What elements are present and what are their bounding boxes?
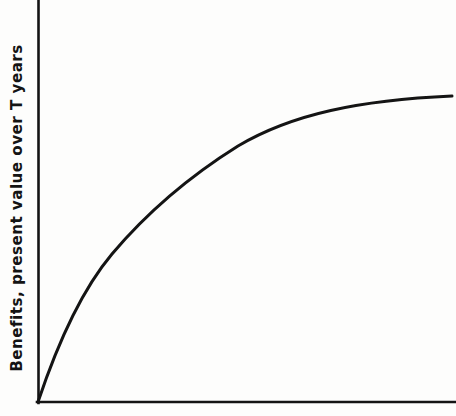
plot-area	[0, 0, 456, 416]
benefits-curve	[38, 96, 452, 402]
x-axis-label-container	[38, 407, 456, 416]
figure-container: Benefits, present value over T years	[0, 0, 456, 416]
